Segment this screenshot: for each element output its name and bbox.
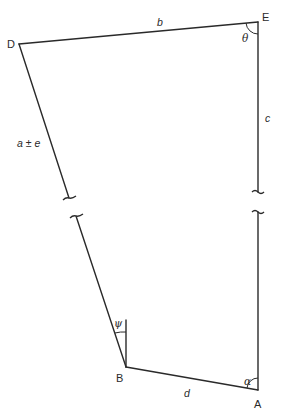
side-a-upper-line xyxy=(19,44,69,198)
side-b-line xyxy=(19,22,258,44)
angle-label-theta: θ xyxy=(242,32,249,44)
angle-label-alpha: α xyxy=(244,375,251,387)
side-label-d: d xyxy=(184,387,191,399)
vertex-label-A: A xyxy=(254,398,262,410)
vertex-label-D: D xyxy=(7,38,15,50)
side-a-lower-line xyxy=(76,216,126,367)
angle-label-psi: ψ xyxy=(114,317,123,329)
side-label-b: b xyxy=(157,16,163,28)
traverse-diagram: D E A B b c a ± e d θ α ψ xyxy=(0,0,281,414)
side-a-break-upper-icon xyxy=(63,196,76,200)
vertex-label-B: B xyxy=(116,372,123,384)
psi-arc-icon xyxy=(115,332,126,333)
vertex-label-E: E xyxy=(262,11,269,23)
side-label-a-pm-e: a ± e xyxy=(17,137,40,149)
side-d-line xyxy=(126,367,258,390)
side-label-c: c xyxy=(265,112,271,124)
